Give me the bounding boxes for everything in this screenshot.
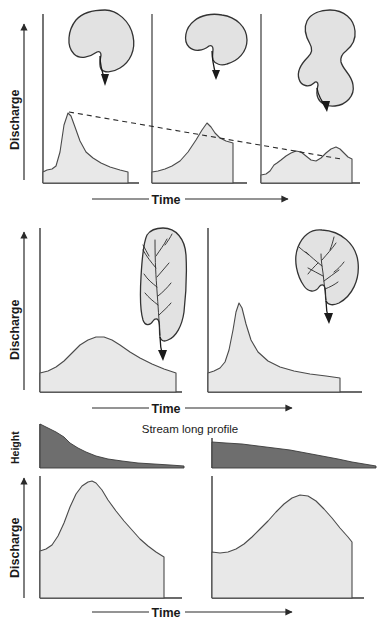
- hydrograph-compact: [208, 303, 340, 392]
- discharge-axis-label-3: Discharge: [8, 518, 22, 578]
- section-stream-gradient: Height Stream long profile Discharge: [8, 423, 376, 620]
- section-basin-shape: Discharge: [8, 10, 360, 207]
- panel-shape-hourglass: [261, 10, 355, 183]
- time-axis-label-1: Time: [152, 193, 181, 207]
- hydrograph-steep-gradient: [40, 481, 164, 598]
- elongated-basin-outlet-arrow: [158, 350, 167, 361]
- section-drainage-density: Discharge: [8, 228, 362, 416]
- hydrograph-pear: [43, 113, 128, 183]
- discharge-axis-label-1: Discharge: [8, 90, 22, 150]
- height-axis-label: Height: [9, 431, 21, 464]
- hydrograph-round: [152, 123, 233, 183]
- panel-density-compact: [208, 230, 358, 392]
- stream-long-profile-label: Stream long profile: [142, 423, 239, 435]
- hydrograph-gentle-gradient: [212, 495, 352, 598]
- hourglass-shaped-basin-icon: [298, 10, 355, 106]
- time-axis-2: Time: [92, 402, 292, 416]
- round-basin-outlet-arrow: [212, 70, 220, 80]
- compact-basin-high-density-icon: [296, 230, 359, 305]
- hydrology-figure: Discharge: [0, 0, 381, 626]
- pear-basin-outlet-arrow: [101, 74, 109, 86]
- hydrograph-elongated: [40, 337, 176, 392]
- time-axis-3: Time: [92, 606, 292, 620]
- panel-shape-round: [152, 14, 247, 183]
- hourglass-basin-outlet-arrow: [321, 101, 330, 112]
- panel-shape-pear: [43, 10, 134, 183]
- pear-shaped-basin-icon: [69, 10, 134, 72]
- panel-density-elongated: [40, 228, 186, 392]
- time-axis-1: Time: [92, 193, 288, 207]
- gentle-long-profile: [212, 442, 376, 468]
- round-fan-shaped-basin-icon: [186, 14, 247, 65]
- discharge-axis-label-2: Discharge: [8, 300, 22, 360]
- hydrograph-hourglass: [261, 147, 352, 183]
- time-axis-label-3: Time: [152, 606, 181, 620]
- time-axis-label-2: Time: [152, 402, 181, 416]
- figure-canvas: Discharge: [0, 0, 381, 626]
- compact-basin-outlet-arrow: [324, 313, 333, 324]
